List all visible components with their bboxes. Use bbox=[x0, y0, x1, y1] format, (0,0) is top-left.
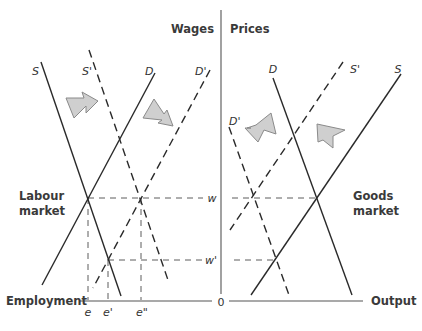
label-D-right: D bbox=[269, 63, 277, 76]
label-S-right: S bbox=[395, 63, 402, 76]
shift-arrow-S-to-S-prime bbox=[66, 92, 98, 118]
shift-arrow-S-to-S-prime-goods bbox=[317, 124, 345, 148]
labour-demand-D bbox=[42, 73, 155, 285]
goods-demand-D-prime bbox=[229, 127, 289, 295]
label-D-prime-right: D' bbox=[229, 115, 241, 128]
prices-axis-label: Prices bbox=[230, 22, 270, 36]
labour-market-title-1: Labour bbox=[19, 189, 64, 203]
goods-supply-S bbox=[251, 74, 401, 295]
shift-arrow-D-to-D-prime bbox=[143, 99, 173, 126]
w-prime-label: w' bbox=[205, 254, 217, 267]
output-axis-label: Output bbox=[371, 294, 417, 308]
labour-supply-S-prime bbox=[89, 50, 169, 283]
origin-label: 0 bbox=[218, 296, 225, 309]
e-tick-label: e bbox=[85, 306, 92, 319]
labour-goods-market-diagram: Wages Prices Employment Output 0 Labour … bbox=[0, 0, 422, 331]
e-prime-tick-label: e' bbox=[103, 306, 113, 319]
goods-supply-S-prime bbox=[230, 62, 343, 230]
label-S-prime-right: S' bbox=[350, 63, 360, 76]
label-D-prime-left: D' bbox=[195, 65, 207, 78]
label-S-left: S bbox=[32, 65, 39, 78]
label-S-prime-left: S' bbox=[82, 65, 92, 78]
goods-market-title-1: Goods bbox=[353, 189, 393, 203]
e-double-tick-label: e" bbox=[136, 306, 148, 319]
w-label: w bbox=[208, 192, 217, 205]
employment-axis-label: Employment bbox=[6, 294, 87, 308]
labour-market-title-2: market bbox=[19, 204, 66, 218]
labour-supply-S bbox=[41, 62, 121, 296]
label-D-left: D bbox=[145, 65, 153, 78]
wages-axis-label: Wages bbox=[171, 22, 214, 36]
goods-market-title-2: market bbox=[353, 204, 400, 218]
goods-demand-D bbox=[273, 78, 352, 295]
shift-arrow-D-to-D-prime-goods bbox=[245, 113, 276, 142]
